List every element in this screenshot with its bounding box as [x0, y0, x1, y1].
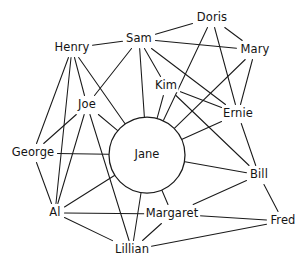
edge-al-lillian — [65, 218, 113, 241]
edge-doris-mary — [225, 28, 242, 41]
edge-mary-ernie — [241, 60, 253, 105]
node-al[interactable]: Al — [48, 207, 62, 219]
node-joe[interactable]: Joe — [77, 99, 98, 111]
edge-lillian-fred — [152, 224, 267, 246]
edge-jane-sam — [140, 49, 145, 117]
edge-bill-margaret — [193, 181, 246, 205]
edge-doris-ernie — [215, 28, 236, 105]
edge-joe-george — [44, 115, 77, 144]
node-fred[interactable]: Fred — [269, 215, 297, 227]
edge-ernie-bill — [241, 124, 255, 166]
node-henry[interactable]: Henry — [53, 42, 91, 54]
edge-sam-henry — [93, 41, 123, 45]
edge-sam-kim — [144, 49, 160, 77]
node-margaret[interactable]: Margaret — [144, 208, 200, 220]
node-george[interactable]: George — [10, 147, 56, 159]
edge-sam-doris — [156, 24, 193, 35]
edge-jane-margaret — [162, 190, 168, 204]
node-jane-label: Jane — [135, 149, 160, 161]
node-bill[interactable]: Bill — [249, 169, 270, 181]
node-doris[interactable]: Doris — [195, 12, 228, 24]
node-mary[interactable]: Mary — [239, 44, 271, 56]
graph-canvas — [0, 0, 308, 272]
edge-jane-kim — [157, 96, 163, 118]
edge-sam-mary — [156, 41, 237, 49]
edge-jane-joe — [98, 115, 117, 131]
sociogram-diagram: DorisSamMaryHenryKimJoeErnieGeorgeBillAl… — [0, 0, 308, 272]
edge-bill-fred — [264, 185, 278, 212]
edge-sam-joe — [94, 49, 131, 96]
edge-jane-ernie — [182, 121, 221, 139]
node-ernie[interactable]: Ernie — [222, 108, 255, 120]
edge-jane-henry — [79, 58, 125, 124]
edge-jane-bill — [185, 162, 247, 173]
node-lillian[interactable]: Lillian — [113, 244, 150, 256]
edge-george-al — [36, 163, 51, 204]
edge-margaret-fred — [200, 216, 267, 220]
edge-jane-lillian — [134, 193, 142, 240]
node-sam[interactable]: Sam — [125, 33, 154, 45]
edge-jane-al — [65, 176, 115, 207]
edge-jane-george — [58, 153, 109, 154]
edge-margaret-lillian — [143, 224, 162, 241]
edge-al-margaret — [65, 213, 145, 214]
edge-sam-ernie — [152, 49, 226, 105]
node-kim[interactable]: Kim — [153, 80, 178, 92]
